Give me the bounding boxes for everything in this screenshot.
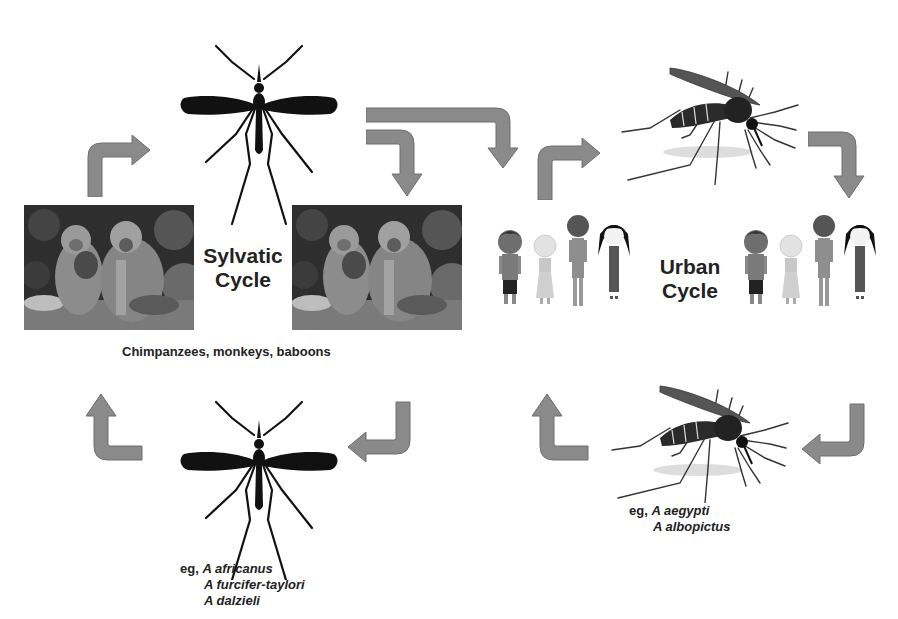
vector-species: A africanus: [202, 561, 272, 576]
aedes-mosquito-icon: [620, 50, 800, 189]
monkey-photo-left: [24, 205, 194, 330]
urban-cycle-title: Urban Cycle: [650, 255, 730, 303]
vectors-prefix: eg,: [180, 561, 199, 576]
urban-vector-list: eg, A aegypti A albopictus: [629, 503, 731, 535]
urban-cycle: Urban Cycle eg, A aegypti A albopictus: [470, 0, 898, 619]
sylvatic-cycle-title: Sylvatic Cycle: [194, 244, 292, 292]
cycle-arrow-up-right-icon: [536, 138, 602, 200]
sylvatic-title-line2: Cycle: [194, 268, 292, 292]
vectors-prefix: eg,: [629, 503, 648, 518]
mosquito-silhouette-icon: [174, 370, 344, 584]
cycle-arrow-left-up-icon: [86, 392, 144, 462]
sylvatic-cycle: Sylvatic Cycle Chimpanzees, monkeys, bab…: [0, 0, 470, 619]
aedes-mosquito-icon: [610, 368, 790, 507]
people-group-icon: [736, 212, 881, 316]
cycle-arrow-left-up-icon: [532, 392, 590, 462]
vector-species: A dalzieli: [204, 593, 260, 608]
cycle-arrow-down-left-icon: [346, 400, 412, 462]
sylvatic-vector-list: eg, A africanus A furcifer-taylori A dal…: [180, 561, 305, 609]
urban-title-line1: Urban: [650, 255, 730, 279]
people-group-icon: [490, 212, 635, 316]
cycle-arrow-down-left-icon: [800, 402, 866, 464]
cycle-arrow-right-down-icon: [808, 130, 866, 200]
vector-species: A albopictus: [653, 519, 731, 534]
vector-species: A aegypti: [651, 503, 709, 518]
cycle-arrow-up-right-icon: [86, 135, 152, 197]
urban-title-line2: Cycle: [650, 279, 730, 303]
hosts-caption: Chimpanzees, monkeys, baboons: [122, 344, 331, 359]
sylvatic-title-line1: Sylvatic: [194, 244, 292, 268]
vector-species: A furcifer-taylori: [204, 577, 305, 592]
monkey-photo-right: [292, 205, 462, 330]
